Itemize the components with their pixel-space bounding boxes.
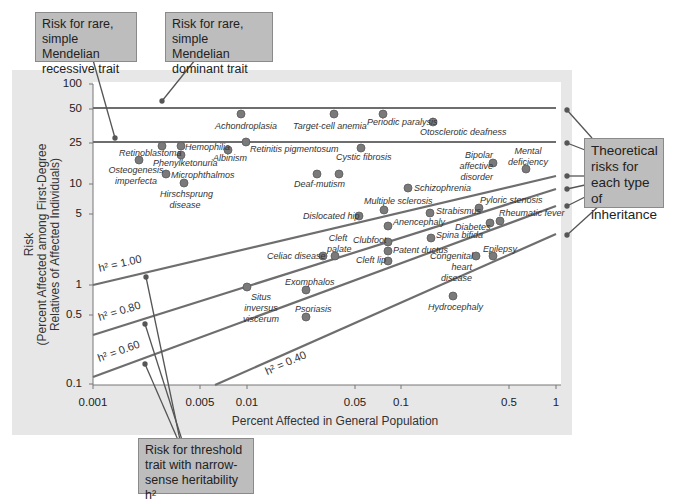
callout-recessive: Risk for rare, simple Mendelian recessiv… — [35, 12, 137, 62]
point-label-text: Cleft palate — [327, 233, 352, 254]
x-tick: 0.001 — [73, 396, 113, 408]
point-label-text: Hirschsprung disease — [160, 189, 213, 210]
point-label: Schizophrenia — [414, 183, 471, 194]
point-label: Osteogenesis imperfecta — [104, 165, 168, 187]
point-label: Clubfoot — [353, 235, 387, 246]
y-tick: 100 — [42, 77, 82, 89]
x-tick: 0.05 — [335, 396, 375, 408]
point-label: Congenital heart disease — [430, 251, 472, 284]
y-tick: 1 — [42, 278, 82, 290]
point-label: Microphthalmos — [171, 170, 235, 181]
point-label: Cystic fibrosis — [336, 152, 392, 163]
point-label-text: Mental deficiency — [508, 146, 548, 167]
y-axis-label: Risk (Percent Affected among First-Degre… — [23, 125, 62, 365]
y-tick: 50 — [42, 102, 82, 114]
point-label: Dislocated hip — [303, 211, 360, 222]
point-label: Otosclerotic deafness — [420, 127, 507, 138]
y-tick: 10 — [42, 177, 82, 189]
point-label-text: Congenital heart disease — [430, 251, 473, 283]
point-label: Multiple sclerosis — [364, 196, 433, 207]
point-label: Epilepsy — [483, 244, 517, 255]
point-label: Celiac disease — [267, 251, 326, 262]
point-label: Achondroplasia — [215, 121, 277, 132]
point-label: Hemophilia — [185, 142, 230, 153]
y-tick: 0.1 — [42, 377, 82, 389]
point-label: Mental deficiency — [508, 146, 548, 168]
callout-threshold: Risk for threshold trait with narrow-sen… — [138, 438, 254, 494]
point-label: Cleft lip — [356, 255, 386, 266]
callout-dominant: Risk for rare, simple Mendelian dominant… — [165, 12, 273, 62]
y-tick: 0.5 — [42, 308, 82, 320]
point-label: Psoriasis — [295, 304, 332, 315]
point-label: Hirschsprung disease — [160, 189, 210, 211]
point-label: Spina bifida — [436, 230, 483, 241]
x-tick: 0.5 — [489, 396, 529, 408]
point-label-text: Bipolar affective disorder — [459, 150, 493, 182]
point-label: Pyloric stenosis — [480, 195, 543, 206]
x-tick: 0.1 — [381, 396, 421, 408]
point-label: Cleft palate — [327, 233, 349, 255]
point-label: Bipolar affective disorder — [443, 150, 493, 183]
point-label: Deaf-mutism — [294, 179, 345, 190]
point-label: Target-cell anemia — [293, 121, 367, 132]
x-tick: 0.005 — [180, 396, 220, 408]
point-label: Strabismus — [436, 206, 481, 217]
x-axis-label: Percent Affected in General Population — [200, 414, 470, 428]
point-label-text: Situs inversus viscerum — [243, 292, 279, 324]
y-tick: 25 — [42, 136, 82, 148]
point-label: Rheumatic fever — [499, 208, 565, 219]
y-tick: 5 — [42, 207, 82, 219]
point-label: Situs inversus viscerum — [236, 292, 286, 325]
y-axis-label-line3: Relatives of Affected Individuals) — [49, 125, 62, 365]
callout-theoretical: Theoretical risks for each type of inher… — [584, 138, 664, 208]
point-label: Albinism — [213, 153, 247, 164]
point-label: Exomphalos — [285, 277, 335, 288]
point-label: Anencephaly — [393, 217, 445, 228]
point-label: Retinitis pigmentosum — [250, 144, 339, 155]
point-label: Hydrocephaly — [428, 302, 483, 313]
x-tick: 0.01 — [227, 396, 267, 408]
point-label-text: Osteogenesis imperfecta — [108, 165, 163, 186]
x-tick: 1 — [536, 396, 576, 408]
